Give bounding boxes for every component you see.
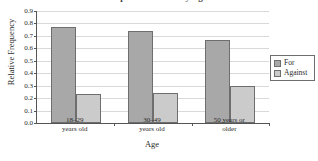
gridline [37,23,269,24]
y-axis-tick-label: 0.3 [24,82,33,89]
bar-for [205,40,230,123]
y-axis-tick-label: 0.5 [24,57,33,64]
gridline [37,11,269,12]
y-axis-tick-mark [34,11,37,12]
legend-swatch-for-icon [274,60,281,67]
x-axis-category-label-line: years old [113,125,190,134]
y-axis-tick-mark [34,111,37,112]
plot-area: 0.00.10.20.30.40.50.60.70.80.9 [36,11,269,124]
x-axis-category-label-line: years old [36,125,113,134]
bar-for [128,31,153,123]
y-axis-title: Relative Frequency [6,14,16,90]
y-axis-tick-label: 0.7 [24,32,33,39]
x-axis-category-label: 50 years orolder [191,116,268,133]
chart-title: Opinion on Issue by Age [70,0,250,2]
x-axis-category-label: 30–49years old [113,116,190,133]
x-axis-category-label-line: 18–29 [36,116,113,125]
y-axis-tick-mark [34,23,37,24]
y-axis-tick-mark [34,61,37,62]
legend-label-against: Against [284,69,307,77]
legend-swatch-against-icon [274,70,281,77]
legend-item-against[interactable]: Against [274,68,312,78]
x-axis-tick-mark [269,123,270,126]
bar-for [51,27,76,123]
y-axis-tick-label: 0.9 [24,8,33,15]
legend-item-for[interactable]: For [274,58,312,68]
y-axis-tick-label: 0.4 [24,70,33,77]
x-axis-title: Age [36,139,268,149]
x-axis-category-label-line: 50 years or [191,116,268,125]
y-axis-tick-mark [34,86,37,87]
y-axis-tick-label: 0.6 [24,45,33,52]
y-axis-tick-label: 0.2 [24,95,33,102]
y-axis-tick-mark [34,73,37,74]
y-axis-tick-label: 0.8 [24,20,33,27]
y-axis-tick-label: 0.1 [24,107,33,114]
x-axis-category-label-line: 30–49 [113,116,190,125]
chart-legend: For Against [270,55,315,81]
y-axis-tick-mark [34,36,37,37]
x-axis-category-label: 18–29years old [36,116,113,133]
x-axis-category-label-line: older [191,125,268,134]
bar-chart-figure: Opinion on Issue by Age Relative Frequen… [0,0,318,161]
y-axis-tick-mark [34,98,37,99]
y-axis-tick-label: 0.0 [24,120,33,127]
legend-label-for: For [284,59,294,67]
y-axis-tick-mark [34,48,37,49]
